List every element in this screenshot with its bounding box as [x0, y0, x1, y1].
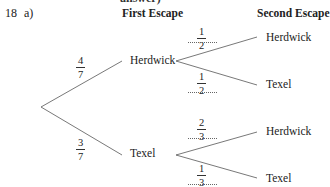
node-second-texel-texel: Texel — [266, 172, 291, 184]
prob-first-texel: 3 7 — [76, 137, 85, 162]
node-first-herdwick: Herdwick — [130, 54, 175, 66]
node-second-texel-herdwick: Herdwick — [266, 125, 311, 137]
answer-dotline — [188, 92, 217, 93]
answer-dotline — [188, 184, 217, 185]
branch-herdwick-texel — [176, 61, 257, 85]
answer-dotline — [188, 42, 217, 43]
branch-texel-herdwick — [176, 132, 257, 155]
node-first-texel: Texel — [130, 147, 155, 159]
node-second-herdwick-texel: Texel — [266, 78, 291, 90]
branch-texel-texel — [176, 155, 257, 178]
prob-herdwick-herdwick: 1 2 — [197, 26, 206, 51]
node-second-herdwick-herdwick: Herdwick — [266, 31, 311, 43]
answer-dotline — [188, 138, 217, 139]
branch-herdwick-herdwick — [176, 37, 257, 61]
prob-first-herdwick: 4 7 — [76, 55, 85, 80]
